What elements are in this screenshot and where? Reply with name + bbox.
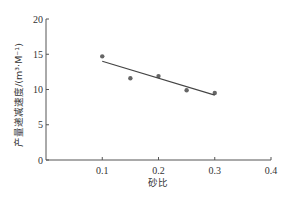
- y-axis-title: 产量递减速度/(m³·M⁻¹): [13, 43, 24, 147]
- x-axis-title: 砂比: [148, 177, 168, 188]
- x-tick-label: 0.4: [265, 165, 278, 176]
- plot-area: [100, 54, 217, 95]
- data-point: [100, 54, 104, 58]
- trend-line: [102, 61, 215, 95]
- data-point: [184, 88, 188, 92]
- y-tick-label: 10: [33, 84, 43, 95]
- x-tick-label: 0.1: [96, 165, 109, 176]
- x-tick-label: 0.3: [209, 165, 222, 176]
- y-tick-label: 0: [38, 155, 43, 166]
- y-tick-label: 20: [33, 14, 43, 25]
- y-ticks: 05101520: [33, 14, 49, 166]
- y-tick-label: 15: [33, 49, 43, 60]
- y-tick-label: 5: [38, 119, 43, 130]
- data-point: [128, 76, 132, 80]
- axes: [46, 19, 271, 160]
- scatter-chart: 05101520 0.10.20.30.4 砂比 产量递减速度/(m³·M⁻¹): [0, 0, 293, 197]
- x-tick-label: 0.2: [152, 165, 165, 176]
